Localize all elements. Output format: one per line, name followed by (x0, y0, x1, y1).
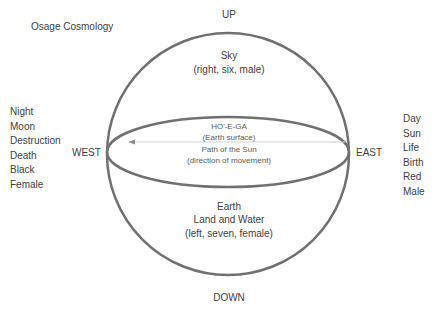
east-item: Day (403, 112, 425, 127)
horizon-subtitle: (Earth surface) (203, 132, 256, 143)
label-west: WEST (72, 146, 101, 159)
west-associations-list: Night Moon Destruction Death Black Femal… (10, 105, 61, 192)
earth-name: Earth (217, 200, 241, 213)
east-item: Life (403, 141, 425, 156)
east-item: Birth (403, 156, 425, 171)
earth-subtitle: Land and Water (194, 213, 265, 226)
sky-name: Sky (221, 49, 238, 62)
east-associations-list: Day Sun Life Birth Red Male (403, 112, 425, 199)
west-item: Destruction (10, 134, 61, 149)
diagram-title: Osage Cosmology (31, 20, 113, 33)
west-item: Moon (10, 120, 61, 135)
label-up: UP (222, 8, 236, 21)
east-item: Red (403, 170, 425, 185)
earth-attributes: (left, seven, female) (185, 227, 273, 240)
west-item: Black (10, 163, 61, 178)
sky-attributes: (right, six, male) (193, 63, 264, 76)
horizon-name: HO'-E-GA (211, 121, 247, 132)
west-item: Female (10, 178, 61, 193)
sun-path-label: Path of the Sun (201, 144, 256, 155)
west-item: Death (10, 149, 61, 164)
west-item: Night (10, 105, 61, 120)
sun-path-note: (direction of movement) (187, 155, 271, 166)
east-item: Male (403, 185, 425, 200)
label-down: DOWN (213, 291, 245, 304)
label-east: EAST (356, 146, 382, 159)
east-item: Sun (403, 127, 425, 142)
arrow-head-icon (128, 140, 135, 145)
